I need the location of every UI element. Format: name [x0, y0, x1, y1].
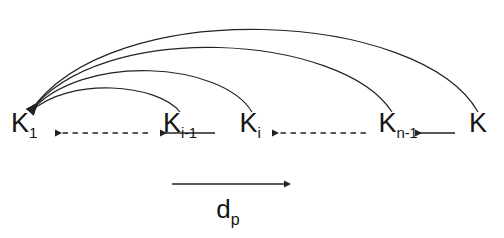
diagram-root: K1 Ki-1 Ki Kn-1 K dp [0, 0, 504, 238]
node-k-i-base: K [239, 108, 257, 138]
arc-k-to-k1 [30, 29, 478, 112]
node-k-n-minus-1-base: K [379, 108, 397, 138]
node-k-i-sub: i [257, 124, 260, 141]
node-k1: K1 [11, 110, 37, 137]
node-k-n-minus-1-sub: n-1 [397, 124, 418, 141]
node-k-i: Ki [239, 110, 260, 137]
axis-label-dp: dp [216, 196, 239, 222]
node-k-i-minus-1: Ki-1 [163, 110, 197, 137]
node-k-base: K [469, 108, 487, 138]
node-k-i-minus-1-sub: i-1 [181, 124, 197, 141]
node-k1-base: K [11, 108, 29, 138]
node-k1-sub: 1 [29, 124, 37, 141]
arc-kim1-to-k1 [30, 88, 180, 112]
axis-label-sub: p [231, 211, 240, 228]
arc-knm1-to-k1 [30, 47, 392, 112]
node-k-n-minus-1: Kn-1 [379, 110, 418, 137]
axis-label-base: d [216, 194, 230, 224]
node-k-i-minus-1-base: K [163, 108, 181, 138]
arc-group [30, 29, 478, 112]
node-k: K [469, 110, 487, 137]
